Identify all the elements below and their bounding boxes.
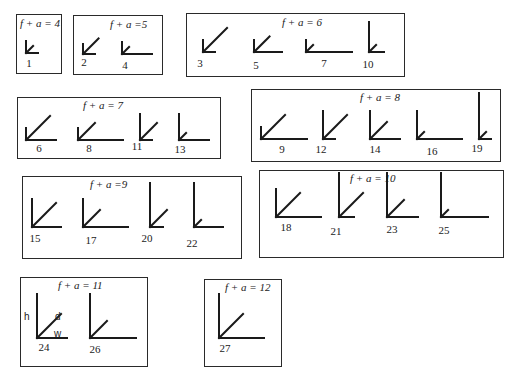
glyph-canvas (17, 15, 63, 75)
depth-stroke (26, 46, 33, 53)
glyph-canvas (21, 278, 149, 368)
depth-stroke (26, 116, 50, 140)
glyph-canvas (252, 90, 502, 163)
axis-label-w: w (54, 328, 61, 339)
depth-stroke (194, 220, 201, 227)
depth-stroke (254, 36, 270, 52)
depth-stroke (150, 210, 167, 227)
depth-stroke (219, 314, 243, 338)
glyph-canvas (205, 280, 283, 368)
glyph-canvas (23, 177, 243, 260)
glyph-canvas (187, 14, 406, 78)
group-box: f + a = 8912141619 (251, 89, 501, 162)
group-box: f + a =915172022 (22, 176, 242, 259)
depth-stroke (122, 47, 129, 54)
group-box: f + a = 7681113 (17, 97, 221, 159)
depth-stroke (276, 193, 300, 217)
depth-stroke (203, 28, 227, 52)
depth-stroke (339, 193, 363, 217)
glyph-canvas (18, 98, 222, 160)
depth-stroke (417, 132, 424, 139)
depth-stroke (179, 133, 186, 140)
depth-stroke (83, 38, 99, 54)
group-box: f + a = 1227 (204, 279, 282, 367)
depth-stroke (370, 122, 387, 139)
group-box: f + a = 41 (16, 14, 62, 74)
depth-stroke (306, 45, 313, 52)
depth-stroke (441, 210, 448, 217)
glyph-canvas (260, 171, 505, 259)
glyph-canvas (74, 16, 164, 76)
depth-stroke (479, 132, 486, 139)
depth-stroke (261, 115, 285, 139)
depth-stroke (78, 123, 95, 140)
axis-label-d: d (55, 311, 61, 322)
group-box: f + a = 112426hdw (20, 277, 148, 367)
group-box: f + a = 635710 (186, 13, 405, 77)
depth-stroke (323, 115, 347, 139)
depth-stroke (32, 203, 56, 227)
axis-label-h: h (24, 311, 30, 322)
group-box: f + a =524 (73, 15, 163, 75)
depth-stroke (83, 210, 100, 227)
depth-stroke (140, 123, 157, 140)
group-box: f + a = 1018212325 (259, 170, 504, 258)
depth-stroke (387, 200, 404, 217)
depth-stroke (369, 45, 376, 52)
depth-stroke (90, 321, 107, 338)
